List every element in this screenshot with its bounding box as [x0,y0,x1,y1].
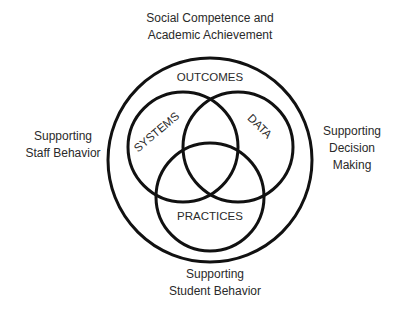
practices-label: PRACTICES [177,210,243,222]
data-label: DATA [245,112,274,141]
venn-diagram: OUTCOMES SYSTEMS DATA PRACTICES [0,0,403,309]
outcomes-label: OUTCOMES [177,71,244,83]
practices-circle [156,143,264,251]
outcomes-circle [108,58,312,262]
